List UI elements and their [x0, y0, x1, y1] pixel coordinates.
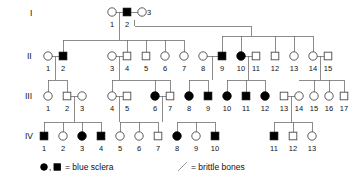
- id-number-III-4: 4: [110, 104, 114, 113]
- individual-III-14-unaffected-circle: [295, 92, 303, 100]
- id-number-IV-12: 12: [289, 144, 297, 153]
- id-number-I-1: 1: [110, 20, 114, 29]
- id-number-III-14: 14: [295, 104, 303, 113]
- id-number-II-14: 14: [309, 64, 317, 73]
- generation-label-III: III: [25, 91, 32, 101]
- individual-II-9-affected-square: [218, 52, 226, 60]
- id-number-IV-7: 7: [156, 144, 160, 153]
- id-number-IV-2: 2: [61, 144, 65, 153]
- id-number-II-1: 1: [46, 64, 50, 73]
- individual-IV-8-affected-circle: [173, 132, 181, 140]
- legend-slash-icon: [178, 162, 187, 171]
- id-number-IV-6: 6: [137, 144, 141, 153]
- individual-IV-4-affected-square: [97, 132, 105, 140]
- individual-III-2-unaffected-square: [63, 92, 71, 100]
- id-number-II-5: 5: [144, 64, 148, 73]
- individual-II-10-affected-circle: [237, 52, 245, 60]
- id-number-III-7: 7: [168, 104, 172, 113]
- individual-II-14-unaffected-circle: [309, 52, 317, 60]
- id-number-II-15: 15: [324, 64, 332, 73]
- individual-III-12-affected-circle: [261, 92, 269, 100]
- id-number-II-11: 11: [252, 64, 260, 73]
- individual-III-15-unaffected-circle: [310, 92, 318, 100]
- id-number-II-2: 2: [61, 64, 65, 73]
- individual-IV-1-affected-square: [40, 132, 48, 140]
- id-number-III-5: 5: [125, 104, 129, 113]
- individual-II-7-unaffected-circle: [180, 52, 188, 60]
- id-number-II-3: 3: [110, 64, 114, 73]
- legend-filled-circle-icon: [41, 164, 48, 171]
- id-number-II-8: 8: [201, 64, 205, 73]
- id-number-III-15: 15: [310, 104, 318, 113]
- id-number-II-13: 13: [290, 64, 298, 73]
- id-number-II-10: 10: [237, 64, 245, 73]
- individual-IV-2-unaffected-circle: [59, 132, 67, 140]
- legend-affected-label: = blue sclera: [65, 162, 114, 172]
- individual-IV-10-affected-square: [211, 132, 219, 140]
- id-number-IV-8: 8: [175, 144, 179, 153]
- individual-II-6-unaffected-circle: [161, 52, 169, 60]
- individual-IV-9-unaffected-circle: [192, 132, 200, 140]
- generation-label-IV: IV: [25, 131, 33, 141]
- individual-I-3-unaffected-circle: [138, 8, 146, 16]
- id-number-IV-1: 1: [42, 144, 46, 153]
- individual-III-3-unaffected-circle: [78, 92, 86, 100]
- individual-III-7-unaffected-square: [166, 92, 174, 100]
- id-number-IV-10: 10: [211, 144, 219, 153]
- individual-IV-5-unaffected-circle: [116, 132, 124, 140]
- id-number-III-13: 13: [280, 104, 288, 113]
- individual-III-6-affected-circle: [151, 92, 159, 100]
- individual-III-11-affected-square: [242, 92, 250, 100]
- individual-IV-13-unaffected-circle: [308, 132, 316, 140]
- individual-I-1-unaffected-circle: [108, 8, 116, 16]
- id-number-IV-11: 11: [270, 144, 278, 153]
- individual-IV-3-affected-circle: [78, 132, 86, 140]
- individual-II-15-unaffected-square: [324, 52, 332, 60]
- id-number-IV-4: 4: [99, 144, 103, 153]
- individual-II-12-unaffected-square: [271, 52, 279, 60]
- id-number-III-9: 9: [206, 104, 210, 113]
- id-number-III-12: 12: [261, 104, 269, 113]
- individual-III-17-unaffected-square: [340, 92, 348, 100]
- individual-IV-12-unaffected-square: [289, 132, 297, 140]
- id-number-II-6: 6: [163, 64, 167, 73]
- legend-slash-label: = brittle bones: [191, 162, 245, 172]
- id-number-I-2: 2: [125, 20, 129, 29]
- individual-IV-11-affected-square: [270, 132, 278, 140]
- id-number-III-10: 10: [223, 104, 231, 113]
- individual-II-13-unaffected-circle: [290, 52, 298, 60]
- id-number-IV-13: 13: [308, 144, 316, 153]
- individual-III-4-unaffected-circle: [108, 92, 116, 100]
- pedigree-chart: 1231234567891011121314151234567891011121…: [0, 0, 355, 181]
- individual-III-13-unaffected-square: [280, 92, 288, 100]
- id-number-III-11: 11: [242, 104, 250, 113]
- pedigree-diagram: 1231234567891011121314151234567891011121…: [0, 0, 355, 181]
- id-number-III-8: 8: [187, 104, 191, 113]
- id-number-III-6: 6: [153, 104, 157, 113]
- id-number-III-2: 2: [65, 104, 69, 113]
- generation-labels: IIIIIIIV: [25, 8, 33, 141]
- generation-label-II: II: [27, 51, 32, 61]
- individual-II-2-affected-square: [59, 52, 67, 60]
- individual-IV-7-unaffected-square: [154, 132, 162, 140]
- individual-III-10-affected-circle: [223, 92, 231, 100]
- id-number-III-3: 3: [80, 104, 84, 113]
- id-number-II-9: 9: [220, 64, 224, 73]
- id-number-I-3: 3: [147, 8, 151, 17]
- id-number-III-16: 16: [325, 104, 333, 113]
- individual-I-2-affected-square: [123, 8, 131, 16]
- id-number-III-1: 1: [46, 104, 50, 113]
- individual-III-5-unaffected-square: [123, 92, 131, 100]
- id-number-II-7: 7: [182, 64, 186, 73]
- individual-II-1-unaffected-circle: [44, 52, 52, 60]
- legend-filled-square-icon: [54, 164, 60, 170]
- connector-lines: [44, 12, 344, 136]
- individual-id-numbers: 1231234567891011121314151234567891011121…: [42, 8, 348, 153]
- individual-symbols: [40, 8, 348, 140]
- id-number-II-4: 4: [125, 64, 129, 73]
- id-number-II-12: 12: [271, 64, 279, 73]
- individual-III-16-unaffected-circle: [325, 92, 333, 100]
- id-number-III-17: 17: [340, 104, 348, 113]
- individual-II-4-unaffected-square: [123, 52, 131, 60]
- individual-II-8-unaffected-circle: [199, 52, 207, 60]
